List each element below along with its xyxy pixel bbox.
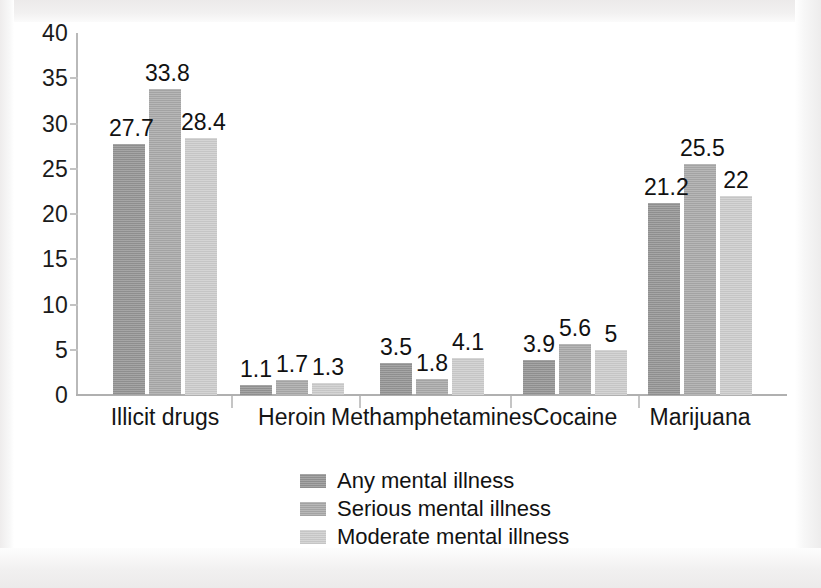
y-axis-tick-label: 20 — [42, 203, 68, 226]
bar-texture — [452, 358, 484, 395]
bar — [523, 360, 555, 395]
x-axis-category-label: Marijuana — [550, 406, 821, 429]
bar-texture — [240, 385, 272, 395]
legend-swatch-texture — [300, 502, 326, 516]
x-axis-group-tick — [638, 396, 640, 408]
bar-texture — [416, 379, 448, 395]
bar-value-label: 22 — [716, 169, 756, 192]
bar-value-label: 1.1 — [236, 358, 276, 381]
bar-texture — [149, 89, 181, 395]
y-axis-tick-mark — [70, 168, 78, 170]
y-axis-tick-label: 30 — [42, 113, 68, 136]
bar-texture — [380, 363, 412, 395]
y-axis-tick-label: 0 — [55, 384, 68, 407]
bar-value-label: 5 — [591, 323, 631, 346]
bar — [648, 203, 680, 395]
bar — [380, 363, 412, 395]
bar-value-label: 1.8 — [412, 352, 452, 375]
y-axis-tick-mark — [70, 123, 78, 125]
bar — [559, 344, 591, 395]
bar-value-label: 1.7 — [272, 353, 312, 376]
x-axis-group-tick — [359, 396, 361, 408]
bar-value-label: 1.3 — [308, 356, 348, 379]
bar-value-label: 27.7 — [109, 117, 149, 140]
bar — [684, 164, 716, 395]
y-axis-tick-label: 5 — [55, 339, 68, 362]
legend-swatch — [300, 530, 326, 544]
bar-texture — [276, 380, 308, 395]
y-axis-tick-mark — [70, 77, 78, 79]
y-axis-tick-mark — [70, 349, 78, 351]
bar-texture — [720, 196, 752, 395]
bar — [312, 383, 344, 395]
bar-value-label: 3.9 — [519, 333, 559, 356]
legend-item: Serious mental illness — [300, 496, 630, 522]
legend-label: Serious mental illness — [337, 498, 551, 520]
legend-item: Any mental illness — [300, 468, 630, 494]
bar-value-label: 25.5 — [680, 137, 720, 160]
bar-value-label: 4.1 — [448, 331, 488, 354]
bar-value-label: 3.5 — [376, 336, 416, 359]
y-axis-tick-mark — [70, 258, 78, 260]
bar — [185, 138, 217, 395]
bar — [416, 379, 448, 395]
legend-swatch — [300, 502, 326, 516]
legend-swatch-texture — [300, 530, 326, 544]
legend-item: Moderate mental illness — [300, 524, 630, 550]
x-axis-group-tick — [231, 396, 233, 408]
bar-value-label: 5.6 — [555, 317, 595, 340]
legend-label: Any mental illness — [337, 470, 514, 492]
bar — [720, 196, 752, 395]
y-axis-tick-mark — [70, 213, 78, 215]
bar — [452, 358, 484, 395]
bar — [595, 350, 627, 395]
legend-swatch — [300, 474, 326, 488]
chart-legend: Any mental illnessSerious mental illness… — [300, 468, 630, 552]
y-axis-tick-label: 40 — [42, 22, 68, 45]
bar — [149, 89, 181, 395]
legend-label: Moderate mental illness — [337, 526, 569, 548]
plot-area — [76, 33, 785, 395]
bar — [240, 385, 272, 395]
bar — [276, 380, 308, 395]
y-axis-tick-mark — [70, 304, 78, 306]
bar-texture — [113, 144, 145, 395]
bar-texture — [559, 344, 591, 395]
grouped-bar-chart: 0510152025303540 Any mental illnessSerio… — [0, 0, 821, 588]
bar-texture — [185, 138, 217, 395]
bar-value-label: 21.2 — [644, 176, 684, 199]
bar-texture — [684, 164, 716, 395]
bar-texture — [523, 360, 555, 395]
bar-texture — [595, 350, 627, 395]
x-axis-group-tick — [510, 396, 512, 408]
y-axis-tick-label: 35 — [42, 67, 68, 90]
bar — [113, 144, 145, 395]
y-axis-tick-label: 10 — [42, 294, 68, 317]
bar-texture — [312, 383, 344, 395]
bar-texture — [648, 203, 680, 395]
y-axis-tick-labels: 0510152025303540 — [0, 0, 68, 588]
legend-swatch-texture — [300, 474, 326, 488]
bar-value-label: 28.4 — [181, 111, 221, 134]
y-axis-tick-label: 25 — [42, 158, 68, 181]
bar-value-label: 33.8 — [145, 62, 185, 85]
y-axis-tick-label: 15 — [42, 248, 68, 271]
